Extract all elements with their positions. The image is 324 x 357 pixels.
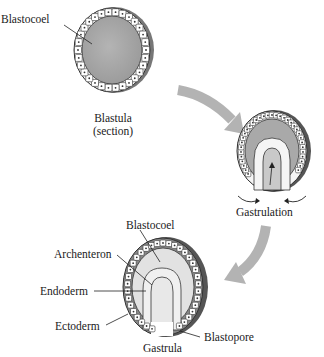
caption-blastula: Blastula bbox=[85, 112, 141, 125]
gastrula-illustration bbox=[123, 237, 208, 337]
arrow-2 bbox=[240, 226, 266, 272]
label-endoderm: Endoderm bbox=[40, 285, 88, 298]
label-ectoderm: Ectoderm bbox=[55, 320, 100, 333]
label-blastocoel-blastula: Blastocoel bbox=[1, 13, 50, 26]
label-archenteron: Archenteron bbox=[54, 248, 111, 261]
arrow-1 bbox=[178, 90, 232, 120]
label-blastocoel-gastrula: Blastocoel bbox=[126, 219, 175, 232]
caption-blastula-section: (section) bbox=[85, 125, 141, 138]
caption-gastrulation: Gastrulation bbox=[236, 206, 293, 219]
blastula-illustration bbox=[74, 7, 154, 93]
caption-gastrula: Gastrula bbox=[143, 342, 182, 355]
label-blastopore: Blastopore bbox=[204, 331, 254, 344]
diagram-canvas bbox=[0, 0, 324, 357]
ectoderm-leader bbox=[106, 314, 128, 325]
gastrulation-illustration bbox=[237, 110, 311, 204]
blastopore-leader bbox=[180, 331, 200, 337]
